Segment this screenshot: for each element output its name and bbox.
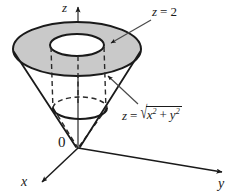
radicand-plus: +: [160, 107, 167, 122]
cone-radicand: x2+y2: [146, 106, 182, 121]
figure-drawing: [0, 0, 235, 196]
z-axis-label: z: [62, 1, 67, 14]
x-axis-label: x: [21, 175, 27, 189]
cone-equation-label: z=√x2+y2: [122, 107, 182, 123]
cone-equals: =: [130, 108, 137, 123]
x-axis: [42, 148, 78, 182]
origin-label: 0: [58, 135, 66, 150]
radicand-x-exponent: 2: [152, 107, 156, 116]
cone-radical: √x2+y2: [140, 107, 181, 123]
y-axis-label: y: [218, 177, 224, 191]
plane-equals: =: [160, 4, 167, 19]
plane-equation-label: z=2: [152, 5, 177, 18]
cone-lhs: z: [122, 108, 127, 123]
plane-rhs: 2: [170, 4, 177, 19]
radicand-y-exponent: 2: [176, 107, 180, 116]
y-axis: [78, 148, 222, 172]
plane-lhs: z: [152, 4, 157, 19]
figure-container: z x y 0 z=2 z=√x2+y2: [0, 0, 235, 196]
